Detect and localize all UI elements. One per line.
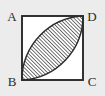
vertex-label-b: B — [8, 74, 17, 89]
vertex-label-c: C — [88, 74, 97, 89]
vertex-label-d: D — [87, 9, 96, 24]
geometry-figure-container: A D B C — [0, 0, 105, 96]
figure-svg: A D B C — [0, 0, 105, 96]
vertex-label-a: A — [7, 9, 17, 24]
